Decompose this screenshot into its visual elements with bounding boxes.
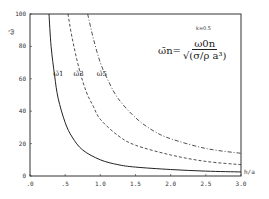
curve-label: ω̄5 bbox=[97, 70, 107, 78]
y-tick-label: 0 bbox=[22, 172, 26, 179]
x-tick-label: 2.5 bbox=[200, 180, 211, 187]
formula-fraction: ω0n √(σ/ρ a³) bbox=[183, 38, 226, 62]
x-tick-label: 2.0 bbox=[165, 180, 176, 187]
k-annotation: k=0.5 bbox=[196, 25, 211, 31]
formula-denominator: √(σ/ρ a³) bbox=[183, 50, 226, 62]
formula: ω̄n= ω0n √(σ/ρ a³) bbox=[158, 38, 226, 62]
chart-area: .0.51.01.52.02.53.0020406080100h/aω̄ ω̄1… bbox=[0, 0, 269, 199]
x-tick-label: .5 bbox=[62, 180, 70, 187]
formula-lhs: ω̄n= bbox=[158, 45, 181, 56]
y-tick-label: 40 bbox=[19, 107, 27, 114]
tick-labels: .0.51.01.52.02.53.0020406080100h/aω̄ bbox=[8, 10, 255, 187]
x-tick-label: 3.0 bbox=[236, 180, 247, 187]
x-axis-label: h/a bbox=[244, 168, 255, 175]
y-tick-label: 100 bbox=[15, 10, 26, 17]
x-tick-label: 1.0 bbox=[95, 180, 106, 187]
series-line bbox=[68, 14, 241, 165]
curve-label: ω̄1 bbox=[53, 70, 63, 78]
y-tick-label: 80 bbox=[19, 42, 27, 49]
x-tick-label: 1.5 bbox=[130, 180, 141, 187]
formula-numerator: ω0n bbox=[192, 38, 217, 50]
x-tick-label: .0 bbox=[26, 180, 34, 187]
y-tick-label: 20 bbox=[19, 140, 27, 147]
curve-labels: ω̄1ω̄3ω̄5 bbox=[53, 70, 107, 78]
curve-label: ω̄3 bbox=[74, 70, 84, 78]
series-line bbox=[88, 14, 241, 153]
y-axis-label: ω̄ bbox=[8, 29, 16, 35]
y-tick-label: 60 bbox=[19, 75, 27, 82]
